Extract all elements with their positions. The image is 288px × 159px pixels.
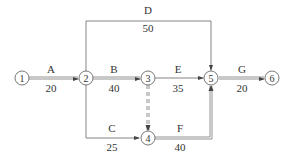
activity-d-label: D bbox=[144, 4, 152, 16]
activity-a-label: A bbox=[47, 63, 55, 75]
node-4-label: 4 bbox=[146, 133, 151, 144]
activity-f-duration: 40 bbox=[175, 141, 187, 153]
network-diagram: A 20 B 40 D 50 E 35 G 20 C 25 F 40 1 bbox=[0, 0, 288, 159]
node-3-label: 3 bbox=[146, 73, 151, 84]
activity-a-arrow bbox=[29, 77, 78, 79]
activity-f-label: F bbox=[177, 122, 183, 134]
activity-e-duration: 35 bbox=[173, 82, 185, 94]
activity-g-label: G bbox=[238, 63, 246, 75]
activity-b-label: B bbox=[110, 63, 117, 75]
node-3: 3 bbox=[141, 71, 155, 85]
node-2: 2 bbox=[79, 71, 93, 85]
dummy-activity-arrow bbox=[146, 85, 151, 131]
activity-g-arrow bbox=[219, 77, 264, 79]
node-1: 1 bbox=[15, 71, 29, 85]
activity-b-duration: 40 bbox=[109, 82, 121, 94]
activity-e-label: E bbox=[175, 63, 182, 75]
node-1-label: 1 bbox=[20, 73, 25, 84]
activity-d-duration: 50 bbox=[143, 22, 155, 34]
node-4: 4 bbox=[141, 131, 155, 145]
activity-c-duration: 25 bbox=[107, 141, 119, 153]
activity-a-duration: 20 bbox=[46, 82, 58, 94]
activity-c-label: C bbox=[108, 122, 115, 134]
node-6-label: 6 bbox=[270, 73, 275, 84]
activity-b-arrow bbox=[93, 77, 140, 79]
node-6: 6 bbox=[265, 71, 279, 85]
node-2-label: 2 bbox=[84, 73, 89, 84]
activity-f-arrow bbox=[155, 85, 214, 139]
node-5: 5 bbox=[204, 71, 218, 85]
activity-g-duration: 20 bbox=[237, 82, 249, 94]
node-5-label: 5 bbox=[209, 73, 214, 84]
